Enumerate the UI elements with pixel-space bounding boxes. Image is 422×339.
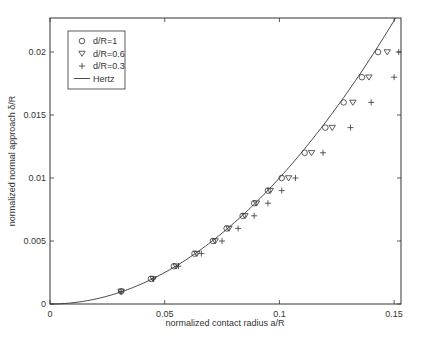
triangle-down-marker	[350, 100, 356, 105]
triangle-down-marker	[384, 50, 390, 55]
x-tick-label: 0	[47, 309, 52, 319]
circle-marker	[375, 49, 381, 55]
circle-marker	[359, 74, 365, 80]
series-d-r-0-3	[118, 49, 402, 294]
circle-marker	[302, 150, 308, 156]
plus-marker	[391, 74, 397, 80]
chart: 00.050.10.15 00.0050.010.0150.02 normali…	[0, 0, 422, 339]
legend-label: d/R=0.3	[93, 61, 125, 71]
y-tick-label: 0.015	[23, 110, 46, 120]
circle-marker	[322, 125, 328, 131]
triangle-down-marker	[285, 176, 291, 181]
plus-marker	[348, 125, 354, 131]
plus-marker	[292, 175, 298, 181]
legend-label: d/R=0.6	[93, 49, 125, 59]
x-axis-label: normalized contact radius a/R	[165, 318, 285, 328]
y-tick-label: 0.02	[28, 47, 46, 57]
series-d-r-1	[118, 49, 381, 294]
data-markers	[118, 49, 402, 294]
legend: d/R=1d/R=0.6d/R=0.3Hertz	[68, 31, 125, 89]
y-tick-label: 0.005	[23, 236, 46, 246]
y-tick-label: 0.01	[28, 173, 46, 183]
plus-marker	[320, 150, 326, 156]
x-tick-label: 0.15	[385, 309, 403, 319]
legend-label: d/R=1	[93, 36, 117, 46]
plus-marker	[279, 188, 285, 194]
triangle-down-marker	[308, 151, 314, 156]
plus-marker	[368, 99, 374, 105]
plus-marker	[219, 238, 225, 244]
y-axis-label: normalized normal approach δ/R	[7, 95, 17, 226]
plus-marker	[265, 200, 271, 206]
plus-marker	[251, 213, 257, 219]
triangle-down-marker	[329, 125, 335, 130]
series-d-r-0-6	[118, 50, 391, 295]
plus-marker	[235, 225, 241, 231]
circle-marker	[341, 100, 347, 106]
y-tick-label: 0	[41, 299, 46, 309]
legend-label: Hertz	[93, 74, 115, 84]
triangle-down-marker	[366, 75, 372, 80]
